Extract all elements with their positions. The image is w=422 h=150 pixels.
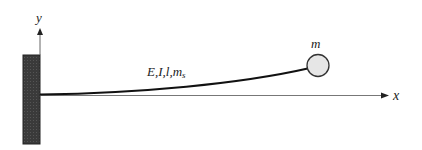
x-axis-label: x (392, 88, 400, 103)
y-axis-label: y (34, 10, 42, 25)
y-axis-arrow-icon (37, 28, 43, 35)
fixed-wall-support (23, 55, 40, 144)
tip-mass-label: m (311, 36, 320, 51)
x-axis-arrow-icon (381, 93, 389, 99)
tip-mass (307, 55, 329, 77)
cantilever-diagram: y x E,I,l,ms m (0, 0, 422, 150)
y-axis (37, 28, 43, 55)
beam-properties-label: E,I,l,ms (146, 64, 186, 80)
